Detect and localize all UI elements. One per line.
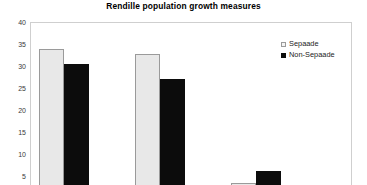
y-tick-label: 5: [0, 173, 26, 180]
legend-label: Sepaade: [289, 40, 319, 48]
bar-sepaade-1: [135, 54, 160, 185]
bar-non-sepaade-0: [64, 64, 89, 185]
y-tick-label: 15: [0, 129, 26, 136]
bar-non-sepaade-1: [160, 79, 185, 185]
y-tick-label: 40: [0, 19, 26, 26]
bar-sepaade-2: [231, 183, 256, 185]
legend-item-non-sepaade[interactable]: Non-Sepaade: [281, 50, 361, 60]
bar-sepaade-0: [39, 49, 64, 185]
legend-item-sepaade[interactable]: Sepaade: [281, 39, 361, 49]
legend-label: Non-Sepaade: [289, 51, 335, 59]
open-square-icon: [281, 42, 286, 47]
chart-legend: SepaadeNon-Sepaade: [281, 39, 361, 61]
y-tick-label: 10: [0, 151, 26, 158]
y-tick-label: 25: [0, 85, 26, 92]
chart-figure: Rendille population growth measures 4035…: [0, 0, 367, 185]
y-axis: 403530252015105: [0, 22, 26, 185]
bar-non-sepaade-2: [256, 171, 281, 185]
y-tick-label: 30: [0, 63, 26, 70]
y-tick-label: 20: [0, 107, 26, 114]
chart-title: Rendille population growth measures: [0, 1, 367, 12]
y-tick-label: 35: [0, 41, 26, 48]
filled-square-icon: [281, 53, 286, 58]
